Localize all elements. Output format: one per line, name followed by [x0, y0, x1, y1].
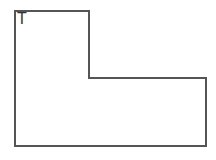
region-label: T [17, 11, 27, 27]
diagram-canvas [0, 0, 216, 160]
l-shaped-region [15, 11, 206, 146]
